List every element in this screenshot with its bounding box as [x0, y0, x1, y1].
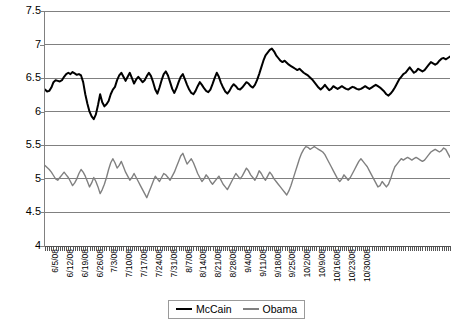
legend-item-mccain: McCain — [176, 303, 232, 315]
x-tick-mark — [446, 247, 447, 251]
x-tick-mark — [49, 247, 50, 251]
x-tick-mark — [162, 247, 163, 251]
x-tick-mark — [130, 247, 131, 251]
x-tick-mark — [51, 247, 52, 251]
chart-container: 7.576.565.554.54 6/5/086/12/086/19/086/2… — [0, 0, 462, 325]
x-tick-label: 7/17/08 — [137, 249, 146, 277]
x-tick-mark — [217, 247, 218, 251]
x-tick-mark — [397, 247, 398, 251]
x-tick-mark — [176, 247, 177, 251]
x-tick-mark — [448, 247, 449, 251]
x-tick-mark — [389, 247, 390, 251]
x-tick-mark — [225, 247, 226, 251]
x-tick-mark — [232, 247, 233, 251]
x-tick-mark — [45, 247, 46, 251]
x-tick-mark — [81, 247, 82, 251]
x-tick-mark — [274, 247, 275, 251]
x-tick-mark — [323, 247, 324, 251]
x-tick-mark — [104, 247, 105, 251]
x-tick-mark — [422, 247, 423, 251]
x-tick-mark — [153, 247, 154, 251]
x-tick-mark — [439, 247, 440, 251]
x-axis: 6/5/086/12/086/19/086/26/087/3/087/10/08… — [45, 249, 450, 297]
x-tick-mark — [306, 247, 307, 251]
x-tick-label: 8/7/08 — [182, 249, 191, 273]
x-tick-mark — [365, 247, 366, 251]
y-tick-label: 7 — [3, 39, 41, 50]
x-tick-mark — [208, 247, 209, 251]
x-tick-mark — [299, 247, 300, 251]
x-tick-mark — [174, 247, 175, 251]
x-tick-mark — [416, 247, 417, 251]
x-tick-mark — [401, 247, 402, 251]
x-tick-mark — [399, 247, 400, 251]
x-tick-mark — [193, 247, 194, 251]
x-tick-mark — [60, 247, 61, 251]
x-tick-mark — [408, 247, 409, 251]
y-tick-label: 4.5 — [3, 206, 41, 217]
x-tick-mark — [187, 247, 188, 251]
x-tick-mark — [53, 247, 54, 251]
legend-swatch-mccain — [176, 308, 192, 310]
y-tick-label: 6.5 — [3, 72, 41, 83]
y-tick-label: 5.5 — [3, 139, 41, 150]
x-tick-mark — [270, 247, 271, 251]
series-line-mccain — [45, 49, 450, 120]
x-tick-mark — [229, 247, 230, 251]
x-tick-mark — [164, 247, 165, 251]
x-tick-mark — [268, 247, 269, 251]
x-tick-mark — [77, 247, 78, 251]
y-tick-mark — [40, 179, 45, 180]
x-tick-label: 6/12/08 — [63, 249, 72, 277]
x-tick-mark — [221, 247, 222, 251]
x-tick-mark — [179, 247, 180, 251]
y-tick-label: 7.5 — [3, 5, 41, 16]
x-tick-mark — [444, 247, 445, 251]
x-tick-mark — [261, 247, 262, 251]
x-tick-mark — [418, 247, 419, 251]
x-tick-mark — [109, 247, 110, 251]
x-tick-label: 6/26/08 — [93, 249, 102, 277]
y-tick-label: 4 — [3, 240, 41, 251]
x-tick-mark — [435, 247, 436, 251]
legend-label-mccain: McCain — [196, 303, 232, 315]
x-tick-mark — [321, 247, 322, 251]
x-tick-mark — [189, 247, 190, 251]
x-tick-mark — [98, 247, 99, 251]
x-tick-mark — [213, 247, 214, 251]
x-tick-label: 10/2/08 — [300, 249, 309, 277]
x-tick-mark — [344, 247, 345, 251]
x-tick-mark — [100, 247, 101, 251]
x-tick-mark — [75, 247, 76, 251]
x-tick-mark — [442, 247, 443, 251]
x-tick-mark — [391, 247, 392, 251]
x-tick-mark — [244, 247, 245, 251]
x-tick-mark — [191, 247, 192, 251]
x-tick-mark — [210, 247, 211, 251]
x-tick-mark — [140, 247, 141, 251]
x-tick-mark — [79, 247, 80, 251]
x-tick-mark — [372, 247, 373, 251]
x-tick-mark — [289, 247, 290, 251]
x-tick-mark — [266, 247, 267, 251]
x-tick-mark — [96, 247, 97, 251]
x-tick-mark — [257, 247, 258, 251]
x-tick-mark — [128, 247, 129, 251]
x-tick-mark — [352, 247, 353, 251]
x-tick-mark — [198, 247, 199, 251]
x-tick-mark — [170, 247, 171, 251]
x-tick-mark — [433, 247, 434, 251]
x-tick-mark — [348, 247, 349, 251]
x-tick-mark — [102, 247, 103, 251]
chart-legend: McCain Obama — [168, 300, 305, 319]
x-tick-mark — [94, 247, 95, 251]
x-tick-mark — [369, 247, 370, 251]
x-tick-mark — [202, 247, 203, 251]
x-tick-mark — [263, 247, 264, 251]
x-tick-mark — [56, 247, 57, 251]
x-tick-mark — [68, 247, 69, 251]
x-tick-label: 6/5/08 — [48, 249, 57, 273]
x-tick-mark — [293, 247, 294, 251]
plot-svg — [45, 11, 450, 246]
x-tick-mark — [380, 247, 381, 251]
